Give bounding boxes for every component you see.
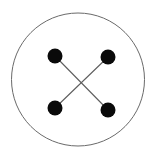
node-top-left <box>48 49 63 64</box>
figure-canvas <box>0 0 156 158</box>
node-bottom-left <box>48 101 63 116</box>
node-top-right <box>101 50 116 65</box>
figure-container <box>0 0 156 158</box>
node-bottom-right <box>101 103 116 118</box>
